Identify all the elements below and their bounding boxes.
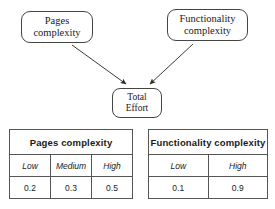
table-pages-complexity: Pages complexity Low Medium High 0.2 0.3… [9, 129, 133, 199]
edge-pages-to-total-effort [72, 45, 126, 84]
table-functionality-title: Functionality complexity [149, 130, 268, 155]
table-functionality-complexity: Functionality complexity Low High 0.1 0.… [148, 129, 268, 199]
figure-canvas: Pages complexity Functionality complexit… [0, 0, 275, 209]
table-functionality-level-high: High [208, 155, 268, 177]
table-pages-level-medium: Medium [51, 155, 92, 177]
table-functionality-value-high: 0.9 [208, 177, 268, 199]
node-functionality-complexity: Functionality complexity [167, 9, 248, 41]
node-total-effort: Total Effort [112, 88, 162, 118]
table-pages-value-medium: 0.3 [51, 177, 92, 199]
table-row: Pages complexity [10, 130, 133, 155]
table-row: Low Medium High [10, 155, 133, 177]
table-row: 0.1 0.9 [149, 177, 268, 199]
influence-diagram: Pages complexity Functionality complexit… [0, 0, 275, 122]
table-pages-value-low: 0.2 [10, 177, 51, 199]
table-functionality-value-low: 0.1 [149, 177, 209, 199]
node-functionality-complexity-line2: complexity [184, 25, 231, 37]
table-row: Functionality complexity [149, 130, 268, 155]
node-pages-complexity: Pages complexity [21, 11, 93, 43]
table-pages-level-low: Low [10, 155, 51, 177]
table-row: Low High [149, 155, 268, 177]
table-pages-title: Pages complexity [10, 130, 133, 155]
edge-functionality-to-total-effort [150, 44, 193, 84]
node-pages-complexity-line1: Pages [45, 15, 70, 27]
node-total-effort-line2: Effort [126, 103, 149, 114]
table-row: 0.2 0.3 0.5 [10, 177, 133, 199]
table-pages-value-high: 0.5 [92, 177, 133, 199]
node-total-effort-line1: Total [127, 92, 146, 103]
node-functionality-complexity-line1: Functionality [180, 13, 236, 25]
table-pages-level-high: High [92, 155, 133, 177]
table-functionality-level-low: Low [149, 155, 209, 177]
node-pages-complexity-line2: complexity [33, 27, 80, 39]
